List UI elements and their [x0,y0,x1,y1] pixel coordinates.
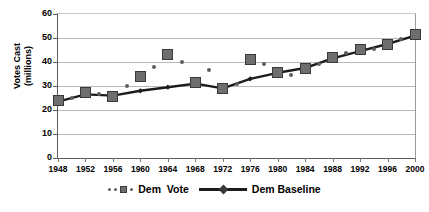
dem-vote-interval-dot [235,82,239,86]
dem-vote-interval-dot [97,92,101,96]
y-axis-tick-label: 30 [24,81,52,90]
x-axis-tick [195,158,196,162]
x-axis-tick [140,158,141,162]
dem-vote-point [53,95,64,106]
y-axis-tick-label: 40 [24,57,52,66]
y-axis-tick-label: 20 [24,105,52,114]
x-axis-tick [113,158,114,162]
solid-line-diamond-marker-icon [199,185,247,194]
x-axis-tick [250,158,251,162]
x-axis-tick [360,158,361,162]
x-axis-tick [58,158,59,162]
dem-baseline-point [138,88,143,93]
dotted-square-marker-icon [108,186,133,193]
series-lines [58,14,415,158]
y-axis-tick-label: 0 [24,153,52,162]
chart-legend: Dem Vote Dem Baseline [0,183,429,195]
legend-item-dem-vote[interactable]: Dem Vote [108,183,189,195]
dem-vote-point [217,83,228,94]
dem-baseline-point [165,85,170,90]
y-axis-tick-label: 50 [24,33,52,42]
x-axis-tick [85,158,86,162]
dem-vote-interval-dot [125,84,129,88]
dem-vote-point [135,71,146,82]
x-axis-tick [168,158,169,162]
x-axis-tick [278,158,279,162]
dem-vote-interval-dot [372,47,376,51]
plot-area: 0102030405060 19481952195619601964196819… [57,13,416,159]
x-axis-tick [305,158,306,162]
dem-vote-point [327,52,338,63]
legend-label-dem-baseline: Dem Baseline [252,183,321,195]
y-axis-tick-label: 10 [24,129,52,138]
dem-vote-point [190,77,201,88]
dem-vote-point [162,49,173,60]
dem-vote-point [245,54,256,65]
dem-vote-point [410,29,421,40]
x-axis-tick [415,158,416,162]
x-axis-tick [388,158,389,162]
chart-figure: Votes Cast (millions) 0102030405060 1948… [0,0,429,212]
dem-vote-point [272,67,283,78]
dem-vote-point [355,44,366,55]
dem-vote-interval-dot [262,62,266,66]
dem-vote-point [382,39,393,50]
x-axis-tick-label: 2000 [398,164,429,174]
legend-label-dem-vote: Dem Vote [138,183,189,195]
x-axis-tick [223,158,224,162]
dem-vote-point [80,87,91,98]
x-axis-tick [333,158,334,162]
dem-vote-point [107,91,118,102]
legend-item-dem-baseline[interactable]: Dem Baseline [199,183,321,195]
y-axis-tick-label: 60 [24,9,52,18]
dem-vote-point [300,63,311,74]
dem-vote-interval-dot [152,65,156,69]
y-axis-title-line1: Votes Cast [12,21,23,111]
